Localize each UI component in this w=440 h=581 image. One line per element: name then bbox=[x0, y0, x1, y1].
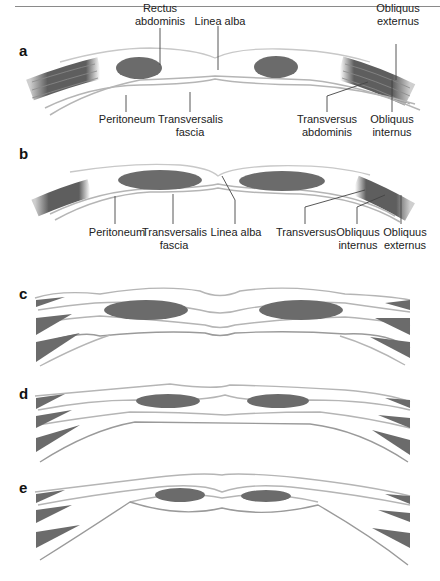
panel-c-label: c bbox=[19, 285, 27, 302]
panel-d-label: d bbox=[19, 385, 28, 402]
label-a-obliquus-internus: Obliquus internus bbox=[364, 113, 420, 139]
label-a-transversalis-fascia: Transversalis fascia bbox=[158, 113, 222, 139]
abdominal-wall-diagram bbox=[0, 0, 440, 581]
panel-c-drawing bbox=[35, 288, 410, 366]
label-a-peritoneum: Peritoneum bbox=[98, 113, 156, 126]
panel-b-drawing bbox=[35, 164, 410, 224]
label-b-obliquus-internus: Obliquus internus bbox=[334, 226, 382, 252]
panel-d-drawing bbox=[35, 384, 410, 462]
label-a-linea-alba: Linea alba bbox=[192, 15, 248, 28]
label-b-peritoneum: Peritoneum bbox=[88, 226, 146, 239]
panel-a-label: a bbox=[19, 42, 27, 59]
panel-a-drawing bbox=[30, 26, 420, 115]
label-a-obliquus-externus: Obliquus externus bbox=[370, 2, 426, 28]
label-b-linea-alba: Linea alba bbox=[208, 226, 264, 239]
panel-e-drawing bbox=[35, 474, 410, 565]
label-a-transversus-abdominis: Transversus abdominis bbox=[294, 113, 360, 139]
label-b-transversus: Transversus bbox=[276, 226, 336, 239]
panel-e-label: e bbox=[19, 479, 27, 496]
label-b-obliquus-externus: Obliquus externus bbox=[380, 226, 430, 252]
label-b-transversalis-fascia: Transversalis fascia bbox=[142, 226, 206, 252]
panel-b-label: b bbox=[19, 145, 28, 162]
label-a-rectus-abdominis: Rectus abdominis bbox=[132, 2, 188, 28]
